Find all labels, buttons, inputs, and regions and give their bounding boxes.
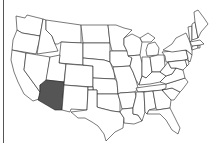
state-florida (147, 108, 180, 134)
state-wyoming (59, 42, 83, 65)
state-new-mexico (62, 85, 88, 112)
state-michigan (140, 33, 159, 56)
state-massachusetts (190, 40, 204, 46)
state-arizona (38, 80, 64, 110)
map-frame (0, 0, 213, 143)
us-map (0, 0, 213, 143)
state-colorado (64, 64, 93, 87)
state-north-dakota (81, 25, 110, 43)
